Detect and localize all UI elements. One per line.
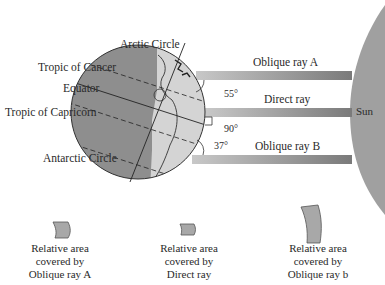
- direct-ray-beam: [205, 108, 352, 117]
- oblique-ray-a-label: Oblique ray A: [253, 56, 318, 69]
- patch-oblique-ray-b: [301, 205, 321, 243]
- caption-line: Oblique ray A: [5, 268, 115, 281]
- oblique-ray-a-beam: [196, 71, 352, 80]
- caption-line: Relative area: [263, 242, 373, 255]
- caption-oblique-ray-a: Relative area covered by Oblique ray A: [5, 242, 115, 281]
- caption-line: Relative area: [134, 242, 244, 255]
- patch-direct-ray: [180, 224, 196, 235]
- caption-line: Relative area: [5, 242, 115, 255]
- caption-line: covered by: [134, 255, 244, 268]
- tropic-of-cancer-label: Tropic of Cancer: [38, 61, 116, 74]
- caption-line: covered by: [263, 255, 373, 268]
- caption-oblique-ray-b: Relative area covered by Oblique ray b: [263, 242, 373, 281]
- caption-line: covered by: [5, 255, 115, 268]
- equator-label: Equator: [63, 82, 99, 95]
- direct-ray-label: Direct ray: [264, 93, 310, 106]
- angle-55-label: 55°: [224, 88, 238, 99]
- tropic-of-capricorn-label: Tropic of Capricorn: [5, 106, 97, 119]
- angle-90-label: 90°: [224, 123, 238, 134]
- angle-37-label: 37°: [214, 140, 228, 151]
- caption-direct-ray: Relative area covered by Direct ray: [134, 242, 244, 281]
- antarctic-circle-label: Antarctic Circle: [43, 152, 117, 165]
- caption-line: Oblique ray b: [263, 268, 373, 281]
- oblique-ray-b-beam: [192, 155, 352, 164]
- sun-label: Sun: [356, 105, 373, 117]
- arctic-circle-label: Arctic Circle: [120, 38, 180, 51]
- insolation-diagram: Arctic Circle Tropic of Cancer Equator T…: [0, 0, 385, 285]
- patch-oblique-ray-a: [53, 222, 70, 238]
- caption-line: Direct ray: [134, 268, 244, 281]
- oblique-ray-b-label: Oblique ray B: [255, 140, 320, 153]
